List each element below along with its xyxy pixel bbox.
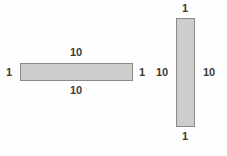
horizontal-rectangle-left-dimension-label: 1: [2, 66, 16, 78]
horizontal-rectangle-shape: [20, 63, 133, 81]
horizontal-rectangle-top-dimension-label: 10: [56, 46, 96, 58]
geometry-figure: 10 10 1 1 1 1 10 10: [0, 0, 227, 156]
vertical-rectangle-left-dimension-label: 10: [151, 66, 173, 78]
vertical-rectangle-bottom-dimension-label: 1: [170, 130, 200, 142]
vertical-rectangle-top-dimension-label: 1: [170, 2, 200, 14]
vertical-rectangle-right-dimension-label: 10: [198, 66, 220, 78]
horizontal-rectangle-bottom-dimension-label: 10: [56, 84, 96, 96]
horizontal-rectangle-right-dimension-label: 1: [135, 66, 149, 78]
vertical-rectangle-shape: [176, 18, 195, 127]
